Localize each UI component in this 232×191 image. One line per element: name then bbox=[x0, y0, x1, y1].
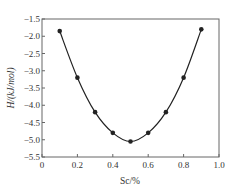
x-tick-label: 0.2 bbox=[72, 160, 83, 170]
x-tick-label: 0.8 bbox=[178, 160, 190, 170]
x-tick-label: 1.0 bbox=[213, 160, 225, 170]
data-point bbox=[181, 75, 186, 80]
data-point bbox=[111, 131, 116, 136]
data-point bbox=[57, 29, 62, 34]
data-point bbox=[199, 27, 204, 32]
y-tick-label: −5.0 bbox=[24, 135, 41, 145]
x-axis-ticks: 00.20.40.60.81.0 bbox=[40, 154, 225, 170]
y-axis-label: H/(kJ/mol) bbox=[6, 67, 17, 109]
y-tick-label: −5.5 bbox=[24, 152, 41, 162]
y-tick-label: −3.0 bbox=[24, 66, 41, 76]
y-tick-label: −4.0 bbox=[24, 100, 41, 110]
data-curve bbox=[60, 29, 202, 141]
y-tick-label: −2.5 bbox=[24, 49, 41, 59]
data-point bbox=[164, 110, 169, 115]
x-tick-label: 0 bbox=[40, 160, 45, 170]
data-point bbox=[75, 75, 80, 80]
data-point bbox=[146, 131, 151, 136]
y-tick-label: −1.5 bbox=[24, 14, 41, 24]
x-tick-label: 0.6 bbox=[143, 160, 155, 170]
data-point bbox=[128, 139, 133, 144]
y-tick-label: −4.5 bbox=[24, 118, 41, 128]
chart: −1.5−2.0−2.5−3.0−3.5−4.0−4.5−5.0−5.5 00.… bbox=[0, 0, 232, 191]
x-axis-label: Sc/% bbox=[120, 176, 140, 186]
y-tick-label: −3.5 bbox=[24, 83, 41, 93]
data-point bbox=[93, 110, 98, 115]
y-tick-label: −2.0 bbox=[24, 31, 41, 41]
plot-frame bbox=[42, 19, 219, 157]
data-markers bbox=[57, 27, 203, 144]
x-tick-label: 0.4 bbox=[107, 160, 119, 170]
